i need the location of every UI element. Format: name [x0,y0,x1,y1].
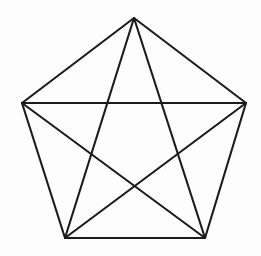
edge-left-apex [22,18,134,103]
diag-apex-bottomleft [65,18,134,238]
diag-left-bottomright [22,103,205,238]
pentagon-graph-svg: Regular pentagon with all diagonals (com… [0,0,261,256]
diagonal-edge-group [22,18,246,238]
edge-right-bottomright [205,103,246,238]
diag-right-bottomleft [65,103,246,238]
diag-apex-bottomright [134,18,205,238]
edge-apex-right [134,18,246,103]
edge-bottomleft-left [22,103,65,238]
pentagon-diagram-canvas: Regular pentagon with all diagonals (com… [0,0,261,256]
